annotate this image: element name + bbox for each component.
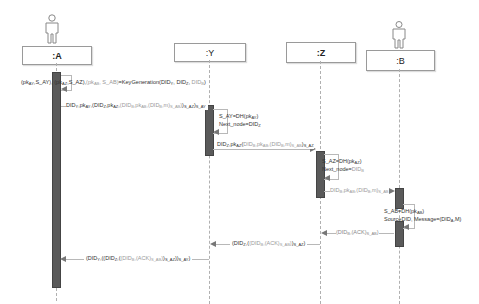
return-b-to-z-label: (DIDB,(ACK)S_AB) [336, 229, 379, 237]
lifeline-b [399, 69, 400, 304]
message-y-to-z [213, 149, 310, 150]
arrow-head [213, 129, 219, 135]
actor-a-icon [43, 14, 61, 44]
participant-b-label: :B [396, 56, 405, 66]
message-a-to-y-label: DIDY,pkAY,(DIDZ,pkAZ,(DIDB,pkAB,(DIDB,m)… [66, 102, 208, 110]
message-z-to-b-label: DIDB,pkAB,(DIDB,m)S_AB [330, 187, 389, 195]
participant-a-label: :A [52, 51, 62, 61]
self-message-z-label: S_AZ=DH(pkAZ)Next_node=DIDB [322, 158, 364, 174]
arrow-head [60, 256, 66, 262]
actor-b-icon [391, 21, 407, 49]
participant-z-label: :Z [317, 48, 326, 58]
participant-y-label: :Y [206, 48, 215, 58]
return-y-to-a-label: (DIDY,((DIDZ,((DIDB,(ACK)S_AB))S_AZ))S_A… [84, 255, 192, 263]
arrow-head [321, 230, 327, 236]
participant-a: :A [22, 46, 92, 65]
arrow-head [403, 224, 409, 230]
return-z-to-y-label: (DIDZ,((DIDB,(ACK)S_AB))S_AZ) [230, 240, 307, 248]
participant-b: :B [366, 50, 435, 71]
arrow-head [324, 175, 330, 181]
arrow-head [389, 188, 395, 194]
message-y-to-z-label: DIDZ,pkAZ(DIDB,pkAB,(DIDB,m)S_AB)S_AZ [217, 141, 314, 149]
participant-y: :Y [174, 43, 246, 62]
participant-z: :Z [286, 42, 356, 63]
self-message-y-label: S_AY=DH(pkAY)Next_node=DIDZ [219, 113, 261, 129]
arrow-head [210, 241, 216, 247]
lifeline-y [209, 60, 210, 304]
self-message-a-label: (pkAY,S_AY), (pkAZ,S_AZ),(pkAB, S_AB)=Ke… [21, 79, 206, 87]
self-message-b-label: S_AB=DH(pkAB)SourceDID, Message=(DIDA,M) [384, 208, 461, 224]
